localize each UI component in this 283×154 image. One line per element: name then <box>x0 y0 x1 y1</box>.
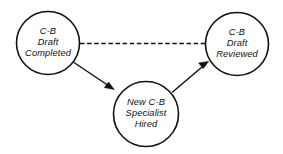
node-cb-draft-reviewed[interactable] <box>206 13 269 76</box>
diagram-canvas: C-B Draft Completed New C-B Specialist H… <box>0 0 283 154</box>
diagram-graphics <box>0 0 283 154</box>
arrowhead-hired-to-reviewed <box>199 61 209 68</box>
node-new-cb-specialist-hired[interactable] <box>114 82 179 147</box>
node-cb-draft-completed[interactable] <box>17 12 80 75</box>
edge-hired-to-reviewed <box>172 65 205 93</box>
edge-completed-to-hired <box>73 62 111 88</box>
